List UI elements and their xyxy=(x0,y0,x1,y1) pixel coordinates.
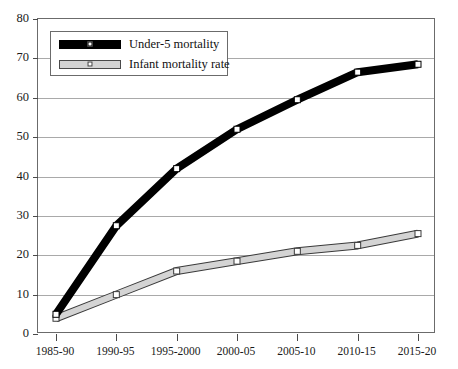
data-point-marker xyxy=(53,311,59,317)
under5-mortality-markers xyxy=(53,61,421,317)
y-axis-tick-label: 70 xyxy=(0,51,29,64)
x-axis-tick xyxy=(116,334,117,341)
data-point-marker xyxy=(234,258,240,264)
data-point-marker xyxy=(294,248,300,254)
data-point-marker xyxy=(113,292,119,298)
x-axis-tick xyxy=(56,334,57,341)
x-axis-tick xyxy=(237,334,238,341)
data-point-marker xyxy=(174,166,180,172)
data-point-marker xyxy=(415,61,421,67)
data-point-marker xyxy=(174,268,180,274)
legend-item-infant-mortality: Infant mortality rate xyxy=(59,55,230,73)
data-point-marker xyxy=(113,223,119,229)
legend-label-infant: Infant mortality rate xyxy=(129,57,230,72)
data-point-marker xyxy=(355,242,361,248)
data-point-marker xyxy=(294,97,300,103)
y-axis-tick-label: 50 xyxy=(0,130,29,143)
y-axis-tick-label: 30 xyxy=(0,209,29,222)
y-axis-tick-label: 10 xyxy=(0,288,29,301)
x-axis-tick-label: 2015-20 xyxy=(382,346,452,358)
y-axis-tick-label: 40 xyxy=(0,170,29,183)
data-point-marker xyxy=(234,126,240,132)
legend-swatch-under5-icon xyxy=(59,40,121,49)
x-axis-tick xyxy=(358,334,359,341)
under5-mortality-line xyxy=(56,64,418,314)
data-point-marker xyxy=(415,231,421,237)
x-axis-tick xyxy=(418,334,419,341)
x-axis-tick xyxy=(177,334,178,341)
legend-item-under5-mortality: Under-5 mortality xyxy=(59,35,219,53)
infant-mortality-line xyxy=(56,234,418,319)
y-axis-tick-label: 80 xyxy=(0,12,29,25)
y-axis-tick xyxy=(33,334,38,335)
legend-label-under5: Under-5 mortality xyxy=(129,37,219,52)
chart-legend: Under-5 mortality Infant mortality rate xyxy=(50,31,228,76)
chart-root: 01020304050607080 1985-901990-951995-200… xyxy=(0,0,458,369)
y-axis-tick-label: 0 xyxy=(0,327,29,340)
legend-swatch-infant-icon xyxy=(59,60,121,69)
y-axis-tick-label: 60 xyxy=(0,91,29,104)
x-axis-tick xyxy=(297,334,298,341)
y-axis-tick-label: 20 xyxy=(0,248,29,261)
data-point-marker xyxy=(355,69,361,75)
